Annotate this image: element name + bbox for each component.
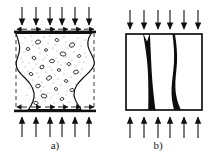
panel-a-top-load-arrows (22, 7, 89, 25)
panel-a-bottom-load-arrows (22, 117, 89, 137)
bottom-platen (14, 110, 96, 113)
panel-b-bottom-load-arrows (130, 117, 198, 138)
figure-container: a) (0, 0, 211, 155)
panel-a: a) (14, 7, 96, 152)
panel-a-caption: a) (51, 139, 60, 152)
split-specimen-outline (126, 34, 202, 110)
panel-b-top-load-arrows (130, 10, 198, 29)
panel-b-caption: b) (153, 139, 163, 152)
panel-b: b) (126, 10, 202, 152)
compression-failure-diagram: a) (0, 0, 211, 155)
